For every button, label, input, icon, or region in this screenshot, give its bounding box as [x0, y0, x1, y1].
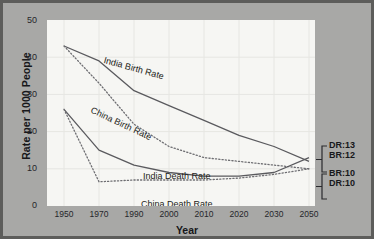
y-tick-label-20: 20 [11, 127, 37, 136]
series-line-india-birth-rate [64, 46, 309, 161]
x-tick-label-2030: 2030 [254, 210, 294, 219]
annotation-india-death-rate: DR:13 [329, 140, 355, 150]
x-tick-label-2050: 2050 [289, 210, 329, 219]
x-axis-title: Year [3, 224, 371, 236]
y-tick-label-30: 30 [11, 90, 37, 99]
x-tick-label-1970: 1970 [79, 210, 119, 219]
bracket-china [316, 174, 327, 199]
chart-figure: Rate per 1000 People 50 40 30 20 10 0 [0, 0, 374, 239]
x-tick-label-1990: 1990 [114, 210, 154, 219]
x-tick-label-2010: 2010 [184, 210, 224, 219]
annotation-india-birth-rate: BR:12 [329, 150, 355, 160]
series-label-india-death-rate: India Death Rate [143, 172, 211, 181]
annotation-china-birth-rate: BR:10 [329, 168, 355, 178]
y-tick-label-40: 40 [11, 53, 37, 62]
y-tick-label-50: 50 [11, 16, 37, 25]
x-tick-label-2020: 2020 [219, 210, 259, 219]
series-label-china-death-rate: China Death Rate [141, 200, 213, 206]
bracket-india [316, 146, 327, 172]
annotation-brackets [315, 20, 329, 206]
y-tick-label-10: 10 [11, 164, 37, 173]
plot-area: India Birth Rate China Birth Rate India … [47, 20, 315, 206]
y-tick-label-0: 0 [11, 201, 37, 210]
x-tick-label-2000: 2000 [149, 210, 189, 219]
annotation-china-death-rate: DR:10 [329, 178, 355, 188]
x-tick-label-1950: 1950 [44, 210, 84, 219]
